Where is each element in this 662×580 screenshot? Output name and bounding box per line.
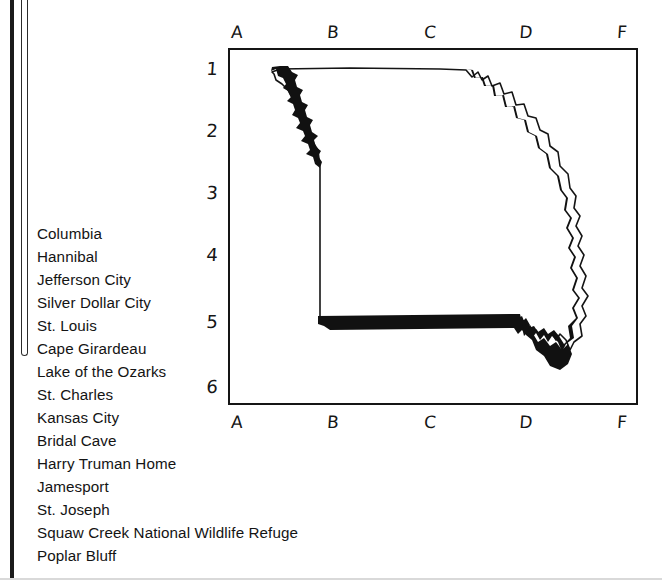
list-item: Poplar Bluff: [37, 544, 457, 567]
list-item: St. Joseph: [37, 498, 457, 521]
list-item: Jamesport: [37, 475, 457, 498]
column-label-top-a: A: [225, 22, 248, 42]
list-item: Silver Dollar City: [37, 291, 457, 314]
page-binding-bar: [10, 0, 14, 580]
column-label-bottom-f: F: [610, 412, 633, 432]
row-label-2: 2: [191, 120, 218, 141]
list-item: Lake of the Ozarks: [37, 360, 457, 383]
row-label-3: 3: [191, 182, 218, 203]
list-item: Harry Truman Home: [37, 452, 457, 475]
column-label-top-f: F: [610, 22, 633, 42]
list-item: Columbia: [37, 222, 457, 245]
column-label-top-d: D: [514, 22, 537, 42]
column-label-top-b: B: [321, 22, 344, 42]
page-canvas: A B C D F A B C D F 1 2 3 4 5 6: [0, 0, 662, 580]
column-label-bottom-d: D: [514, 412, 537, 432]
list-item: Hannibal: [37, 245, 457, 268]
list-item: Cape Girardeau: [37, 337, 457, 360]
list-item: St. Louis: [37, 314, 457, 337]
missouri-places-list: Columbia Hannibal Jefferson City Silver …: [37, 222, 457, 567]
list-item: St. Charles: [37, 383, 457, 406]
column-label-top-c: C: [418, 22, 441, 42]
margin-bracket: [21, 0, 28, 356]
list-item: Jefferson City: [37, 268, 457, 291]
list-item: Bridal Cave: [37, 429, 457, 452]
row-label-1: 1: [191, 58, 218, 79]
list-item: Kansas City: [37, 406, 457, 429]
list-item: Squaw Creek National Wildlife Refuge: [37, 521, 457, 544]
